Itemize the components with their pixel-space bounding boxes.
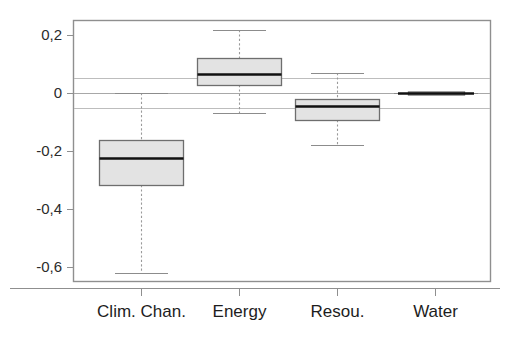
y-axis: 0,2 0 -0,2 -0,4 -0,6: [36, 26, 74, 275]
box-rect-energy: [198, 59, 282, 86]
x-axis: Clim. Chan. Energy Resou. Water: [10, 289, 500, 322]
box-rect-clim-chan: [100, 141, 184, 186]
xtick-label-clim-chan: Clim. Chan.: [97, 302, 186, 321]
xtick-label-water: Water: [413, 302, 458, 321]
box-water[interactable]: [394, 92, 479, 95]
ytick-label-1: 0: [54, 84, 62, 101]
boxplot-chart: 0,2 0 -0,2 -0,4 -0,6 Clim. Chan. Energy …: [0, 0, 511, 341]
ytick-label-4: -0,6: [36, 258, 62, 275]
box-rect-resou: [296, 100, 380, 121]
xtick-label-resou: Resou.: [311, 302, 365, 321]
ytick-label-3: -0,4: [36, 200, 62, 217]
xtick-label-energy: Energy: [213, 302, 267, 321]
ytick-label-0: 0,2: [41, 26, 62, 43]
ytick-label-2: -0,2: [36, 142, 62, 159]
boxplot-figure: 0,2 0 -0,2 -0,4 -0,6 Clim. Chan. Energy …: [0, 0, 511, 341]
